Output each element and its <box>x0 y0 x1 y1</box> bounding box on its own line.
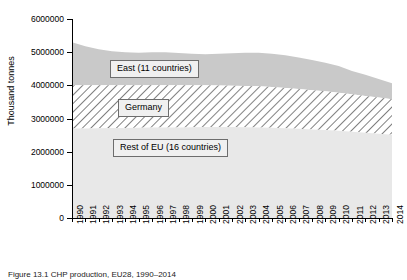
x-tick <box>165 218 166 222</box>
y-tick <box>67 52 72 53</box>
y-tick <box>67 185 72 186</box>
x-tick <box>245 218 246 222</box>
y-axis-line <box>72 19 73 219</box>
x-tick <box>285 218 286 222</box>
x-tick <box>152 218 153 222</box>
x-tick <box>192 218 193 222</box>
x-tick-label: 2004 <box>262 205 271 224</box>
y-tick <box>67 119 72 120</box>
y-tick <box>67 85 72 86</box>
legend-germany: Germany <box>118 99 169 117</box>
stacked-area-series <box>72 19 392 218</box>
y-tick-label: 0 <box>59 214 64 223</box>
x-tick <box>112 218 113 222</box>
x-tick-label: 1993 <box>116 205 125 224</box>
x-tick-label: 2012 <box>369 205 378 224</box>
x-tick-label: 2010 <box>342 205 351 224</box>
x-tick-label: 2009 <box>329 205 338 224</box>
plot-area <box>72 19 392 218</box>
x-tick <box>232 218 233 222</box>
x-tick-label: 2011 <box>356 206 365 224</box>
x-tick-label: 1995 <box>142 205 151 224</box>
x-tick <box>99 218 100 222</box>
x-tick <box>72 218 73 222</box>
x-tick <box>272 218 273 222</box>
x-tick <box>299 218 300 222</box>
x-tick-label: 1996 <box>156 205 165 224</box>
y-tick-label: 5000000 <box>31 48 64 57</box>
x-tick <box>379 218 380 222</box>
y-tick-label: 4000000 <box>31 81 64 90</box>
x-tick-label: 1998 <box>182 205 191 224</box>
x-tick <box>352 218 353 222</box>
y-tick-label: 1000000 <box>31 181 64 190</box>
x-tick-label: 1994 <box>129 205 138 224</box>
x-tick <box>219 218 220 222</box>
y-tick-label: 3000000 <box>31 115 64 124</box>
y-tick-label: 6000000 <box>31 15 64 24</box>
y-tick <box>67 19 72 20</box>
x-tick-label: 2001 <box>222 205 231 224</box>
y-tick-label: 2000000 <box>31 148 64 157</box>
x-tick-label: 1991 <box>89 205 98 224</box>
x-tick-label: 1992 <box>102 205 111 224</box>
x-tick-label: 2002 <box>236 205 245 224</box>
figure-caption: Figure 13.1 CHP production, EU28, 1990–2… <box>8 270 403 280</box>
figure: Thousand tonnes 010000002000000300000040… <box>0 0 407 280</box>
x-tick-label: 2005 <box>276 205 285 224</box>
x-tick-label: 2013 <box>382 205 391 224</box>
x-tick <box>259 218 260 222</box>
x-tick <box>139 218 140 222</box>
legend-rest: Rest of EU (16 countries) <box>113 139 228 157</box>
x-tick-label: 2007 <box>302 205 311 224</box>
x-tick-label: 2008 <box>316 205 325 224</box>
x-tick <box>312 218 313 222</box>
x-tick <box>392 218 393 222</box>
y-tick <box>67 152 72 153</box>
x-tick-label: 2006 <box>289 205 298 224</box>
x-tick <box>339 218 340 222</box>
legend-east: East (11 countries) <box>110 60 199 78</box>
x-tick-label: 1997 <box>169 205 178 224</box>
x-tick <box>365 218 366 222</box>
y-axis-labels: 0100000020000003000000400000050000006000… <box>0 0 64 280</box>
x-tick <box>85 218 86 222</box>
x-tick-label: 2014 <box>396 205 405 224</box>
x-tick-label: 1990 <box>76 205 85 224</box>
x-tick <box>205 218 206 222</box>
x-tick <box>125 218 126 222</box>
x-tick <box>179 218 180 222</box>
x-tick-label: 1999 <box>196 205 205 224</box>
x-tick <box>325 218 326 222</box>
x-tick-label: 2000 <box>209 205 218 224</box>
x-tick-label: 2003 <box>249 205 258 224</box>
